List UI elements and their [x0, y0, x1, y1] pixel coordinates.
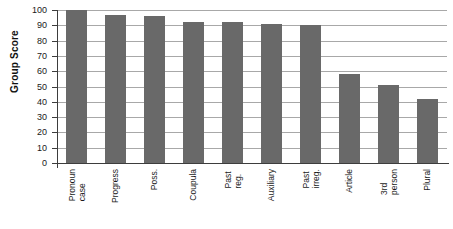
- bar-chart: Group Score 1009080706050403020100 Prono…: [0, 0, 453, 229]
- bar: [144, 16, 164, 163]
- x-tick-label: Past reg.: [223, 169, 242, 189]
- y-tick-label: 100: [32, 5, 47, 15]
- plot-area: [57, 10, 447, 163]
- x-tick-slot: Poss.: [135, 163, 174, 229]
- x-tick-slot: Coupula: [174, 163, 213, 229]
- x-tick-label: Pronoun case: [67, 169, 86, 201]
- y-tick-label: 10: [37, 143, 47, 153]
- bar: [261, 24, 281, 163]
- bar: [222, 22, 242, 163]
- y-tick-label: 0: [42, 158, 47, 168]
- bars-series: [57, 10, 447, 163]
- bar: [339, 74, 359, 163]
- x-tick-label: Auxiliary: [267, 169, 277, 201]
- bar: [417, 99, 437, 163]
- x-tick-label: Article: [345, 169, 355, 193]
- y-tick-label: 90: [37, 20, 47, 30]
- y-tick-label: 80: [37, 36, 47, 46]
- x-tick-slot: Pronoun case: [57, 163, 96, 229]
- bar: [378, 85, 398, 163]
- x-tick-slot: Article: [330, 163, 369, 229]
- x-axis-tick-labels: Pronoun caseProgressPoss.CoupulaPast reg…: [57, 163, 447, 229]
- y-axis-line: [57, 10, 58, 168]
- y-tick-label: 50: [37, 82, 47, 92]
- x-tick-slot: 3rd person: [369, 163, 408, 229]
- x-tick-label: 3rd person: [379, 169, 398, 195]
- y-axis-tick-labels: 1009080706050403020100: [0, 0, 57, 229]
- x-tick-label: Plural: [423, 169, 433, 191]
- x-tick-label: Past irreg.: [301, 169, 320, 189]
- y-tick-label: 30: [37, 112, 47, 122]
- x-tick-slot: Progress: [96, 163, 135, 229]
- x-tick-slot: Plural: [408, 163, 447, 229]
- bar: [183, 22, 203, 163]
- y-tick-label: 40: [37, 97, 47, 107]
- x-tick-slot: Past reg.: [213, 163, 252, 229]
- x-tick-slot: Auxiliary: [252, 163, 291, 229]
- y-tick-label: 70: [37, 51, 47, 61]
- y-tick-label: 60: [37, 66, 47, 76]
- x-tick-label: Coupula: [189, 169, 199, 201]
- y-tick-label: 20: [37, 127, 47, 137]
- x-tick-slot: Past irreg.: [291, 163, 330, 229]
- bar: [105, 15, 125, 163]
- x-tick-label: Progress: [111, 169, 121, 203]
- bar: [300, 25, 320, 163]
- x-tick-label: Poss.: [150, 169, 160, 190]
- bar: [66, 10, 86, 163]
